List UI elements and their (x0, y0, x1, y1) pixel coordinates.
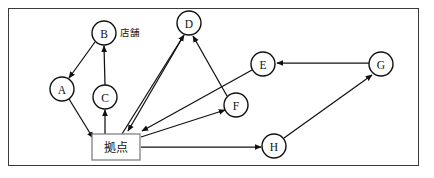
node-b[interactable]: B (92, 21, 116, 45)
store-label: 店舗 (120, 27, 140, 38)
node-f[interactable]: F (224, 93, 248, 117)
graph-canvas: ABCDEFGH 拠点 店舗 (0, 0, 434, 178)
node-g[interactable]: G (369, 52, 393, 76)
node-d-label: D (185, 18, 193, 30)
node-b-label: B (100, 28, 108, 40)
edge-a-to-hub (69, 99, 93, 138)
edge-h-to-g (284, 75, 372, 138)
node-h[interactable]: H (262, 134, 286, 158)
hub-layer: 拠点 (92, 134, 140, 160)
node-e[interactable]: E (251, 52, 275, 76)
node-e-label: E (259, 59, 266, 71)
edge-c-to-b (104, 46, 105, 85)
node-h-label: H (270, 141, 278, 153)
figure-root: ABCDEFGH 拠点 店舗 (0, 0, 434, 178)
node-g-label: G (377, 59, 385, 71)
node-d[interactable]: D (177, 11, 201, 35)
node-hub-label: 拠点 (104, 141, 128, 155)
edge-b-to-a (69, 42, 95, 78)
node-c[interactable]: C (93, 85, 117, 109)
edge-d-to-hub (128, 35, 184, 131)
node-hub[interactable]: 拠点 (92, 134, 140, 160)
annotations-layer: 店舗 (120, 27, 140, 38)
node-a[interactable]: A (50, 77, 74, 101)
node-a-label: A (58, 84, 67, 96)
node-c-label: C (101, 92, 109, 104)
edge-hub-to-f (141, 110, 225, 137)
node-f-label: F (233, 100, 239, 112)
